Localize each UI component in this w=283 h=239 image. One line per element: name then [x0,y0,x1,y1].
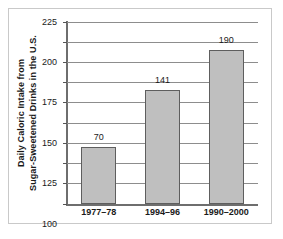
y-axis-tick: 0 [63,204,67,205]
y-axis-tick: 100 [63,123,67,124]
y-axis-tick-label: 125 [31,178,57,188]
x-axis-category-label: 1994–96 [145,207,180,217]
bar [81,147,116,204]
x-axis-category-label: 1990–2000 [204,207,249,217]
y-axis-title-line-1: Daily Caloric Intake from [16,35,28,191]
bar-value-label: 70 [94,132,104,142]
bar-value-label: 141 [155,75,170,85]
y-axis-tick-label: 175 [31,97,57,107]
y-axis-tick-label: 150 [31,138,57,148]
y-axis-tick: 50 [63,163,67,164]
bar [209,50,244,204]
y-axis-tick: 225 [63,22,67,23]
y-axis-tick: 175 [63,62,67,63]
y-axis-tick: 125 [63,102,67,103]
y-axis-tick: 200 [63,42,67,43]
y-axis-tick-label: 100 [31,219,57,229]
y-axis-tick: 150 [63,82,67,83]
y-axis-tick-label: 225 [31,17,57,27]
plot-area: 0255075100125150175200225 70141190 [67,22,258,204]
x-axis-category-label: 1977–78 [81,207,116,217]
y-axis-tick: 25 [63,183,67,184]
y-axis-line [66,21,68,205]
bar [145,90,180,204]
bar-value-label: 190 [219,35,234,45]
gridline [67,22,258,23]
bar-chart-figure: Daily Caloric Intake from Sugar-Sweetene… [0,0,283,239]
y-axis-tick-label: 200 [31,57,57,67]
y-axis-tick: 75 [63,143,67,144]
x-axis-line [66,204,258,206]
